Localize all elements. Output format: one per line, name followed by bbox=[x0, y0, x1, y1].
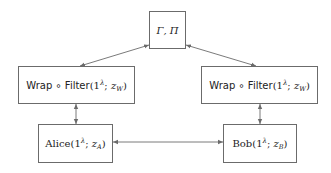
node-wrap-left: Wrap ∘ Filter (1λ; zW) bbox=[18, 66, 135, 104]
wrap-left-prefix: Wrap ∘ Filter bbox=[26, 80, 89, 91]
edge-top-wrap-left bbox=[80, 45, 149, 66]
wrap-right-prefix: Wrap ∘ Filter bbox=[209, 80, 272, 91]
node-wrap-right: Wrap ∘ Filter (1λ; zW) bbox=[201, 66, 318, 104]
node-alice: Alice(1λ; zA) bbox=[38, 124, 113, 163]
wrap-left-args: (1λ; zW) bbox=[90, 80, 127, 91]
wrap-right-args: (1λ; zW) bbox=[273, 80, 310, 91]
alice-label: Alice(1λ; zA) bbox=[45, 138, 105, 149]
node-top-label: Γ, Π bbox=[156, 25, 178, 36]
node-bob: Bob(1λ; zB) bbox=[223, 124, 297, 163]
bob-label: Bob(1λ; zB) bbox=[232, 138, 287, 149]
node-top: Γ, Π bbox=[149, 11, 186, 49]
edge-top-wrap-right bbox=[186, 45, 256, 66]
